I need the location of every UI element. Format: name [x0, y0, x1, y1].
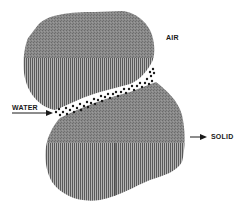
air-label: AIR: [166, 34, 179, 41]
solid-label: SOLID: [211, 133, 233, 140]
solid-pointer-arrow: [190, 134, 207, 140]
water-label: WATER: [12, 104, 38, 111]
